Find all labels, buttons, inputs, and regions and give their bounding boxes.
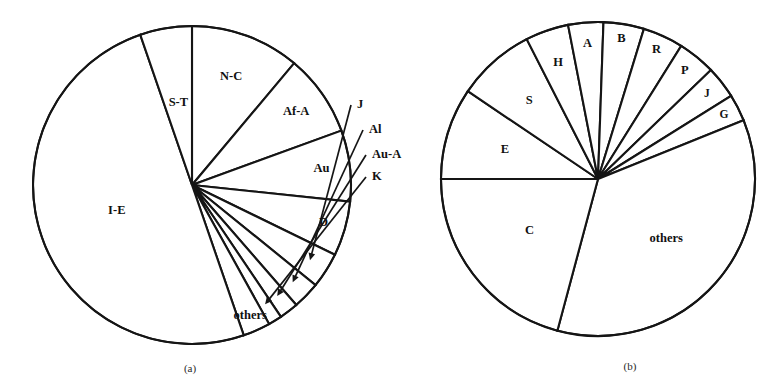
pie-callout-label-al: Al — [369, 122, 382, 136]
pie-slice-label-others: others — [234, 308, 267, 322]
pie-slice-label-a: A — [583, 36, 592, 50]
pie-slice-label-others: others — [650, 231, 683, 245]
pie-slice-label-r: R — [652, 42, 662, 56]
pie-callout-label-k: K — [372, 169, 382, 183]
pie-slice-label-i-e: I-E — [108, 203, 125, 217]
pie-slice-label-g: G — [719, 108, 728, 120]
pie-callout-label-j: J — [357, 97, 363, 111]
pie-slice-label-s-t: S-T — [169, 95, 189, 109]
figure-root: N-CAf-AAuDothersI-ES-T JAlAu-AK (a) ESHA… — [0, 0, 776, 392]
pie-callout-label-au-a: Au-A — [372, 147, 401, 161]
pie-chart-figure: N-CAf-AAuDothersI-ES-T JAlAu-AK (a) ESHA… — [0, 0, 776, 392]
pie-slice-label-e: E — [501, 142, 509, 156]
pie-slice-label-b: B — [617, 31, 625, 45]
pie-slice-label-h: H — [553, 55, 563, 69]
caption-a: (a) — [184, 362, 197, 375]
pie-slices-a — [33, 26, 351, 344]
pie-slice-label-c: C — [525, 223, 534, 237]
pie-slice-label-s: S — [526, 93, 533, 107]
pie-slices-b — [441, 22, 755, 336]
caption-b: (b) — [624, 360, 637, 373]
pie-slice-label-j: J — [704, 87, 710, 99]
pie-slice-label-p: P — [681, 63, 689, 77]
pie-slice-label-af-a: Af-A — [283, 104, 309, 118]
pie-slice-label-au: Au — [313, 161, 329, 175]
pie-slice-label-n-c: N-C — [220, 69, 242, 83]
pie-chart-panel-b: ESHABRPJGothersC (b) — [441, 22, 755, 373]
pie-chart-panel-a: N-CAf-AAuDothersI-ES-T JAlAu-AK (a) — [33, 26, 401, 375]
